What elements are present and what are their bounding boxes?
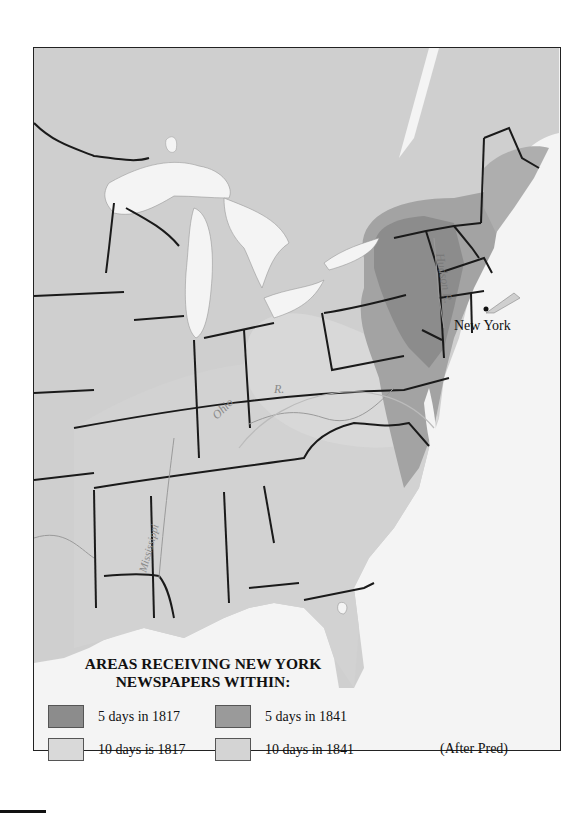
legend-item-10-days-1841: 10 days in 1841	[215, 738, 354, 761]
legend-title-line2: NEWSPAPERS WITHIN:	[33, 673, 373, 691]
legend-label: 5 days in 1817	[98, 709, 180, 725]
map-frame: Hudson R. Ohio R. Mississippi New York	[33, 47, 561, 751]
long-island	[486, 293, 520, 313]
legend-title: AREAS RECEIVING NEW YORK NEWSPAPERS WITH…	[33, 655, 373, 691]
eastern-us-map: Hudson R. Ohio R. Mississippi	[34, 48, 559, 749]
swatch-5-days-1841	[215, 705, 251, 728]
footnote-rule	[0, 810, 46, 813]
new-york-label: New York	[454, 318, 511, 334]
legend-label: 10 days is 1817	[98, 742, 186, 758]
credit-text: (After Pred)	[440, 741, 508, 757]
legend-label: 10 days in 1841	[265, 742, 354, 758]
new-york-marker	[484, 307, 489, 312]
legend-title-line1: AREAS RECEIVING NEW YORK	[33, 655, 373, 673]
swatch-10-days-1817	[48, 738, 84, 761]
legend-label: 5 days in 1841	[265, 709, 347, 725]
ohio-r-label: R.	[273, 382, 284, 396]
legend-item-10-days-1817: 10 days is 1817	[48, 738, 186, 761]
legend-item-5-days-1817: 5 days in 1817	[48, 705, 180, 728]
swatch-10-days-1841	[215, 738, 251, 761]
legend-item-5-days-1841: 5 days in 1841	[215, 705, 347, 728]
swatch-5-days-1817	[48, 705, 84, 728]
lake-okeechobee	[338, 602, 347, 614]
